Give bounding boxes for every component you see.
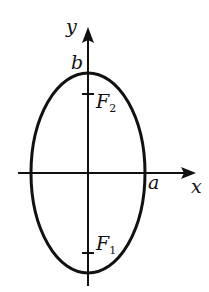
a-label: a (148, 171, 159, 193)
x-axis-label: x (191, 175, 202, 197)
ellipse-diagram: y x b a F2 F1 (0, 0, 209, 292)
b-label: b (71, 51, 83, 73)
focus-f1-label: F1 (95, 232, 116, 257)
y-axis-label: y (65, 15, 77, 37)
focus-f2-label: F2 (95, 90, 116, 115)
